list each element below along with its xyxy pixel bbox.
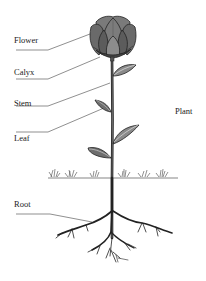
label-calyx: Calyx [14,68,34,77]
leaf-small-left [95,100,111,112]
label-flower: Flower [14,36,38,45]
leaf-mid-right [113,125,139,144]
leader-lines [16,34,110,222]
plant-diagram: Flower Calyx Stem Leaf Root Plant [0,0,206,281]
label-leaf: Leaf [14,134,30,143]
leaf-upper-right [113,65,136,76]
root-leader-line [16,214,92,222]
leaf-leader-line [16,108,104,132]
diagram-title-plant: Plant [175,107,192,116]
flower-head [90,16,136,61]
label-stem: Stem [14,99,31,108]
grass-tufts [49,169,168,177]
label-root: Root [14,200,31,209]
roots [56,178,172,262]
